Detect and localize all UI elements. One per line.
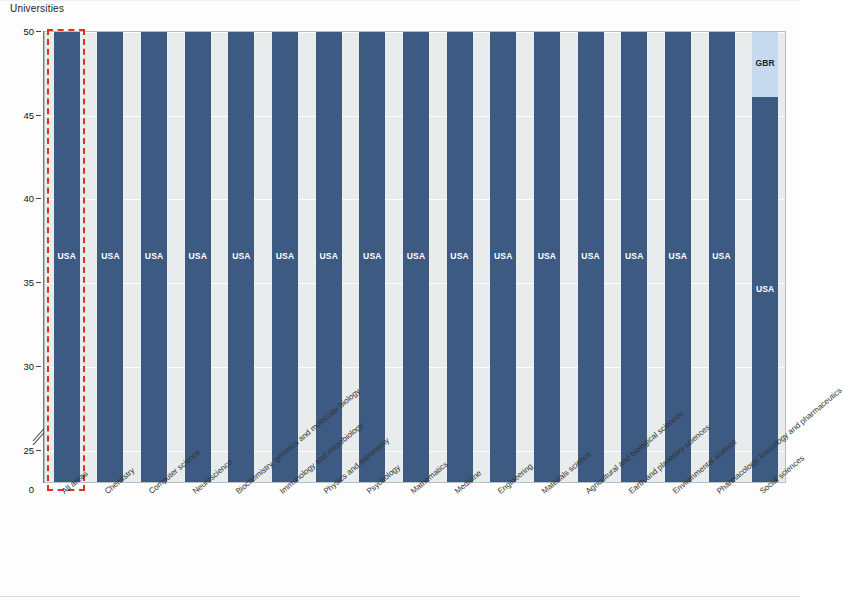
- bar-segment[interactable]: USA: [272, 31, 298, 482]
- bar-segment-label: USA: [625, 252, 644, 261]
- y-axis-tick-label: 45: [23, 109, 34, 120]
- bar-segment-label: USA: [669, 252, 688, 261]
- bar-column[interactable]: USA: [272, 31, 298, 482]
- bar-segment[interactable]: USA: [97, 31, 123, 482]
- x-axis-labels: All areasChemistryComputer scienceNeuros…: [0, 483, 800, 601]
- y-axis-tick-mark: [36, 282, 41, 283]
- bar-column[interactable]: USA: [447, 31, 473, 482]
- y-axis-tick-label: 40: [23, 193, 34, 204]
- bar-segment-label: USA: [538, 252, 557, 261]
- bar-segment-label: USA: [756, 285, 775, 294]
- y-axis-tick-mark: [36, 198, 41, 199]
- bar-column[interactable]: USA: [54, 31, 80, 482]
- bar-segment[interactable]: USA: [54, 31, 80, 482]
- bar-segment-label: USA: [58, 252, 77, 261]
- top-rule: [0, 0, 800, 1]
- bar-segment[interactable]: USA: [447, 31, 473, 482]
- bar-segment[interactable]: GBR: [752, 31, 778, 97]
- bar-segment-label: USA: [188, 252, 207, 261]
- bar-segment[interactable]: USA: [403, 31, 429, 482]
- y-axis-tick-label: 25: [23, 444, 34, 455]
- y-axis-tick-mark: [36, 31, 41, 32]
- y-axis-tick-label: 30: [23, 360, 34, 371]
- bar-column[interactable]: USA: [359, 31, 385, 482]
- bar-column[interactable]: USA: [709, 31, 735, 482]
- bar-column[interactable]: USA: [185, 31, 211, 482]
- bar-segment[interactable]: USA: [709, 31, 735, 482]
- bar-column[interactable]: USA: [621, 31, 647, 482]
- bar-segment-label: USA: [319, 252, 338, 261]
- bar-column[interactable]: USA: [403, 31, 429, 482]
- bar-segment-label: USA: [581, 252, 600, 261]
- y-axis-title: Universities: [10, 3, 64, 14]
- bar-segment-label: USA: [363, 252, 382, 261]
- bar-segment-label: USA: [101, 252, 120, 261]
- bar-segment-label: USA: [407, 252, 426, 261]
- bar-segment-label: USA: [494, 252, 513, 261]
- y-axis-tick-label: 35: [23, 277, 34, 288]
- bar-segment-label: USA: [145, 252, 164, 261]
- bar-column[interactable]: USA: [141, 31, 167, 482]
- bar-segment-label: USA: [450, 252, 469, 261]
- bar-segment-label: GBR: [755, 59, 775, 68]
- bar-segment[interactable]: USA: [621, 31, 647, 482]
- bar-segment[interactable]: USA: [228, 31, 254, 482]
- y-axis-tick-mark: [36, 450, 41, 451]
- y-axis-tick-mark: [36, 366, 41, 367]
- bar-segment[interactable]: USA: [578, 31, 604, 482]
- bar-column[interactable]: USAGBR: [752, 31, 778, 482]
- bar-segment[interactable]: USA: [185, 31, 211, 482]
- bar-segment[interactable]: USA: [752, 97, 778, 482]
- bar-column[interactable]: USA: [490, 31, 516, 482]
- y-axis-tick-label: 50: [23, 26, 34, 37]
- bar-column[interactable]: USA: [228, 31, 254, 482]
- bar-segment-label: USA: [712, 252, 731, 261]
- bar-column[interactable]: USA: [534, 31, 560, 482]
- bar-column[interactable]: USA: [97, 31, 123, 482]
- bottom-rule: [0, 596, 800, 597]
- bar-segment[interactable]: USA: [490, 31, 516, 482]
- bar-segment[interactable]: USA: [534, 31, 560, 482]
- bar-segment[interactable]: USA: [141, 31, 167, 482]
- bar-segment[interactable]: USA: [359, 31, 385, 482]
- y-axis-tick-mark: [36, 115, 41, 116]
- bar-column[interactable]: USA: [578, 31, 604, 482]
- bar-segment-label: USA: [276, 252, 295, 261]
- bar-segment-label: USA: [232, 252, 251, 261]
